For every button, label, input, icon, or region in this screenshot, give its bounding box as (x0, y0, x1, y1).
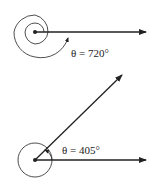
vertex-dot (33, 158, 37, 162)
vertex-dot (33, 30, 37, 34)
figure-angle-720: θ = 720° (14, 15, 146, 59)
angle-label: θ = 720° (71, 47, 109, 59)
rotation-spiral-icon (14, 15, 68, 58)
angle-diagram: θ = 720° θ = 405° (0, 0, 156, 185)
angle-label: θ = 405° (62, 144, 100, 156)
figure-angle-405: θ = 405° (18, 75, 146, 177)
